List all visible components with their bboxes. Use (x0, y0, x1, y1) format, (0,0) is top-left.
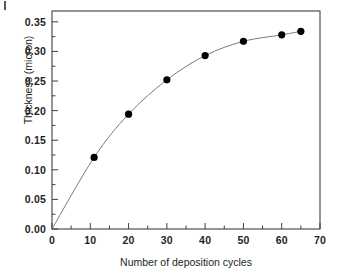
data-point (163, 76, 170, 83)
axis-ticks (52, 22, 320, 229)
data-point (297, 28, 304, 35)
data-point (202, 52, 209, 59)
figure-canvas: Thickness (micron) Number of deposition … (0, 0, 341, 276)
data-point (125, 111, 132, 118)
plot-area (0, 0, 341, 276)
series-line (52, 31, 301, 229)
data-point (91, 154, 98, 161)
plot-frame (52, 11, 320, 229)
series-markers (91, 28, 305, 161)
data-point (240, 38, 247, 45)
data-point (278, 31, 285, 38)
